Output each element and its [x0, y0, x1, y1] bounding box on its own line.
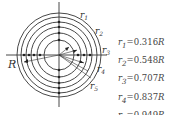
label-r4: r4: [97, 64, 105, 75]
label-r5: r5: [90, 81, 98, 92]
formula-r1: r1=0.316R: [118, 35, 164, 53]
radius-formula-list: r1=0.316R r2=0.548R r3=0.707R r4=0.837R …: [118, 35, 164, 115]
label-r1: r1: [80, 10, 88, 21]
formula-r2: r2=0.548R: [118, 53, 164, 71]
label-R: R: [7, 58, 16, 71]
formula-r3: r3=0.707R: [118, 71, 164, 89]
label-r2: r2: [95, 26, 103, 37]
formula-r4: r4=0.837R: [118, 90, 164, 108]
radius-r-line-5: [59, 55, 91, 78]
formula-r5: r5=0.949R: [118, 108, 164, 115]
label-r3: r3: [102, 45, 110, 56]
